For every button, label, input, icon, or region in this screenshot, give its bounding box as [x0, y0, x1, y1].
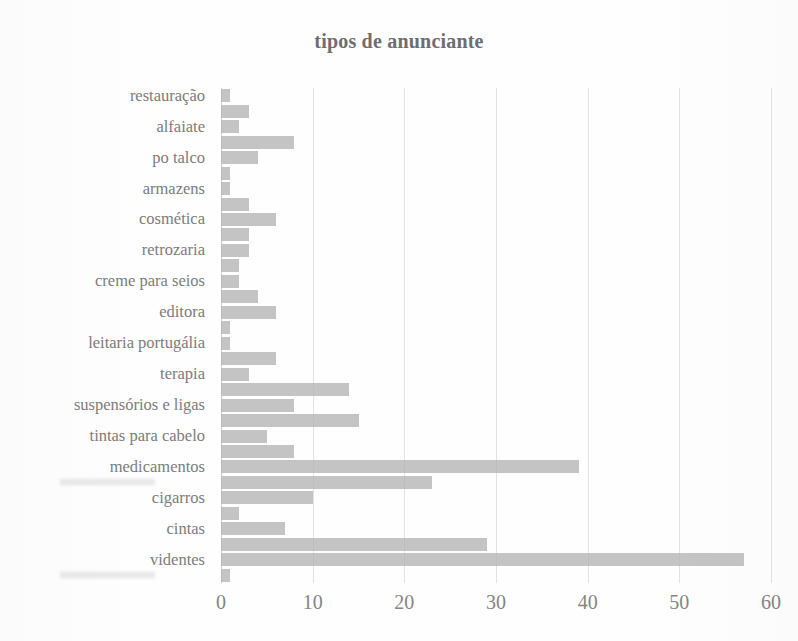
bar[interactable]: [221, 321, 230, 334]
category-label: alfaiate: [156, 117, 205, 137]
bar[interactable]: [221, 445, 294, 458]
bar[interactable]: [221, 491, 313, 504]
bar[interactable]: [221, 460, 579, 473]
bar[interactable]: [221, 399, 294, 412]
bar-row[interactable]: [221, 553, 744, 566]
bar[interactable]: [221, 259, 239, 272]
category-label-illegible: [60, 572, 155, 579]
bar-row[interactable]: [221, 213, 276, 226]
gridline-60: [771, 88, 772, 583]
bar-row[interactable]: [221, 182, 230, 195]
bar-row[interactable]: [221, 507, 239, 520]
category-label: terapia: [160, 364, 205, 384]
bar[interactable]: [221, 198, 249, 211]
bar-row[interactable]: [221, 105, 249, 118]
bar[interactable]: [221, 507, 239, 520]
bar[interactable]: [221, 151, 258, 164]
bar-row[interactable]: [221, 491, 313, 504]
bar[interactable]: [221, 368, 249, 381]
bar[interactable]: [221, 383, 349, 396]
bar-row[interactable]: [221, 538, 487, 551]
chart-figure: tipos de anunciante restauraçãoalfaiatep…: [0, 0, 798, 641]
bar[interactable]: [221, 306, 276, 319]
bar[interactable]: [221, 476, 432, 489]
category-label: cosmética: [139, 209, 205, 229]
bar[interactable]: [221, 414, 359, 427]
bar[interactable]: [221, 182, 230, 195]
bar[interactable]: [221, 213, 276, 226]
bar-row[interactable]: [221, 167, 230, 180]
category-label: cintas: [167, 519, 206, 539]
x-tick-label-60: 60: [761, 591, 781, 614]
bar-row[interactable]: [221, 228, 249, 241]
bar-row[interactable]: [221, 414, 359, 427]
category-label: suspensórios e ligas: [74, 395, 205, 415]
bar[interactable]: [221, 228, 249, 241]
bar[interactable]: [221, 167, 230, 180]
category-label: retrozaria: [142, 240, 205, 260]
chart-title: tipos de anunciante: [0, 30, 798, 53]
bar-row[interactable]: [221, 522, 285, 535]
category-label: tintas para cabelo: [90, 426, 205, 446]
bar-row[interactable]: [221, 244, 249, 257]
bar-row[interactable]: [221, 89, 230, 102]
bar-row[interactable]: [221, 198, 249, 211]
bar-row[interactable]: [221, 399, 294, 412]
bar[interactable]: [221, 522, 285, 535]
plot-area: [221, 88, 771, 583]
bar-row[interactable]: [221, 321, 230, 334]
category-label-illegible: [60, 479, 155, 486]
category-label: armazens: [143, 179, 205, 199]
bar[interactable]: [221, 105, 249, 118]
bar[interactable]: [221, 553, 744, 566]
category-label: po talco: [152, 148, 205, 168]
bar-row[interactable]: [221, 352, 276, 365]
bar-row[interactable]: [221, 259, 239, 272]
category-label: editora: [159, 302, 205, 322]
bar[interactable]: [221, 569, 230, 582]
bar-row[interactable]: [221, 569, 230, 582]
x-tick-label-10: 10: [303, 591, 323, 614]
bar[interactable]: [221, 290, 258, 303]
value-axis-labels: 0102030405060: [221, 591, 771, 631]
bar[interactable]: [221, 120, 239, 133]
bar-row[interactable]: [221, 290, 258, 303]
category-label: restauração: [130, 86, 205, 106]
x-tick-label-20: 20: [394, 591, 414, 614]
bar-row[interactable]: [221, 430, 267, 443]
bar[interactable]: [221, 275, 239, 288]
bar[interactable]: [221, 136, 294, 149]
bar-row[interactable]: [221, 337, 230, 350]
x-tick-label-0: 0: [216, 591, 226, 614]
bar[interactable]: [221, 337, 230, 350]
bar-row[interactable]: [221, 151, 258, 164]
bar-row[interactable]: [221, 476, 432, 489]
bar-row[interactable]: [221, 120, 239, 133]
bars-layer: [221, 88, 771, 583]
bar-row[interactable]: [221, 306, 276, 319]
bar-row[interactable]: [221, 136, 294, 149]
category-label: leitaria portugália: [88, 333, 205, 353]
bar-row[interactable]: [221, 275, 239, 288]
category-label: medicamentos: [110, 457, 205, 477]
x-tick-label-40: 40: [578, 591, 598, 614]
bar-row[interactable]: [221, 368, 249, 381]
x-tick-label-30: 30: [486, 591, 506, 614]
category-axis-labels: restauraçãoalfaiatepo talcoarmazenscosmé…: [0, 88, 213, 583]
bar[interactable]: [221, 244, 249, 257]
x-tick-label-50: 50: [669, 591, 689, 614]
category-label: videntes: [150, 550, 205, 570]
bar[interactable]: [221, 89, 230, 102]
bar[interactable]: [221, 352, 276, 365]
bar-row[interactable]: [221, 460, 579, 473]
category-label: creme para seios: [95, 271, 205, 291]
category-label: cigarros: [152, 488, 205, 508]
bar-row[interactable]: [221, 383, 349, 396]
bar[interactable]: [221, 538, 487, 551]
bar-row[interactable]: [221, 445, 294, 458]
bar[interactable]: [221, 430, 267, 443]
